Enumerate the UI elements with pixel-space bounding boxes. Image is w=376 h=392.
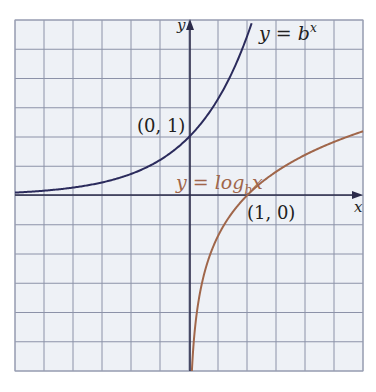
exp-label-sup: x [310, 21, 317, 35]
function-graph: y x y = bx y = logbx (0, 1) (1, 0) [0, 0, 376, 392]
log-label-base: y = log [175, 171, 244, 193]
log-label-tail: x [252, 171, 263, 193]
y-axis-label: y [176, 16, 186, 34]
x-axis-label: x [354, 198, 363, 216]
point-label-1-0: (1, 0) [247, 202, 295, 223]
exp-label-base: y = b [258, 22, 310, 44]
point-label-0-1: (0, 1) [137, 115, 185, 136]
log-label-sub: b [244, 183, 252, 197]
exp-curve-label: y = bx [258, 21, 317, 44]
